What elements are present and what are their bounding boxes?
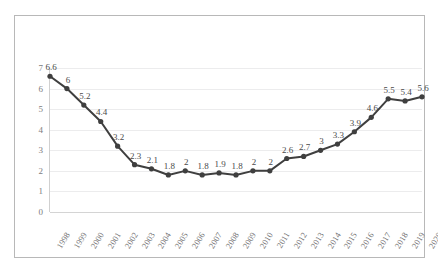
data-point-marker	[132, 162, 137, 167]
x-axis-tick-label: 2008	[224, 231, 241, 251]
data-point-marker	[216, 170, 221, 175]
data-point-marker	[183, 168, 188, 173]
data-point-label: 1.8	[231, 161, 242, 171]
data-point-label: 2.7	[299, 142, 310, 152]
y-axis-tick-label: 1	[39, 186, 44, 196]
data-point-label: 3.3	[333, 130, 344, 140]
x-axis-tick-label: 2000	[88, 231, 105, 251]
data-point-marker	[335, 142, 340, 147]
data-point-marker	[81, 102, 86, 107]
data-point-label: 2	[252, 157, 257, 167]
x-axis-tick-label: 2013	[308, 231, 325, 251]
data-point-marker	[352, 129, 357, 134]
data-point-label: 3	[319, 136, 324, 146]
line-series	[50, 68, 422, 212]
x-axis-tick-label: 2020	[426, 231, 438, 251]
x-axis-tick-label: 2019	[410, 231, 427, 251]
screenshot-root: 01234567 1998199920002001200220032004200…	[0, 0, 438, 268]
data-point-marker	[233, 172, 238, 177]
x-axis-tick-label: 1999	[71, 231, 88, 251]
x-axis-tick-label: 2010	[257, 231, 274, 251]
data-point-label: 2.6	[282, 145, 293, 155]
data-point-label: 4.4	[96, 107, 107, 117]
x-axis-tick-label: 2001	[105, 231, 122, 251]
data-point-label: 5.5	[384, 85, 395, 95]
data-point-label: 3.2	[113, 132, 124, 142]
data-point-marker	[419, 94, 424, 99]
x-axis-tick-label: 2005	[173, 231, 190, 251]
y-axis-tick-label: 5	[39, 104, 44, 114]
data-point-label: 1.8	[164, 161, 175, 171]
y-axis-tick-label: 6	[39, 84, 44, 94]
x-axis-tick-label: 2015	[342, 231, 359, 251]
data-point-label: 2	[269, 157, 274, 167]
data-point-marker	[47, 74, 52, 79]
data-point-marker	[166, 172, 171, 177]
data-point-marker	[318, 148, 323, 153]
data-point-label: 3.9	[350, 118, 361, 128]
data-point-marker	[200, 172, 205, 177]
y-axis-tick-label: 7	[39, 63, 44, 73]
x-axis-tick-label: 2006	[190, 231, 207, 251]
data-point-marker	[149, 166, 154, 171]
x-axis-tick-label: 2011	[274, 230, 291, 249]
data-point-marker	[64, 86, 69, 91]
data-point-label: 5.2	[79, 91, 90, 101]
data-point-label: 1.8	[198, 161, 209, 171]
data-point-label: 2.1	[147, 155, 158, 165]
chart-title	[0, 0, 438, 4]
y-axis-tick-label: 0	[39, 207, 44, 217]
data-point-marker	[402, 98, 407, 103]
x-axis-tick-label: 2007	[207, 231, 224, 251]
data-point-marker	[98, 119, 103, 124]
x-axis-tick-label: 2004	[156, 231, 173, 251]
x-axis-tick-label: 2009	[240, 231, 257, 251]
y-axis-tick-label: 2	[39, 166, 44, 176]
x-axis-line	[50, 212, 422, 213]
data-point-label: 5.6	[417, 83, 428, 93]
x-axis-tick-label: 2016	[359, 231, 376, 251]
x-axis-tick-label: 1998	[54, 231, 71, 251]
data-point-label: 2.3	[130, 151, 141, 161]
data-point-marker	[115, 144, 120, 149]
data-point-label: 2	[184, 157, 189, 167]
data-point-marker	[250, 168, 255, 173]
data-point-label: 5.4	[400, 87, 411, 97]
data-point-marker	[284, 156, 289, 161]
x-axis-tick-label: 2014	[325, 231, 342, 251]
data-point-marker	[386, 96, 391, 101]
x-axis-tick-label: 2012	[291, 231, 308, 251]
data-point-marker	[267, 168, 272, 173]
data-point-label: 6.6	[45, 62, 56, 72]
x-axis-tick-label: 2003	[139, 231, 156, 251]
data-point-marker	[301, 154, 306, 159]
y-axis-tick-label: 4	[39, 125, 44, 135]
x-axis-tick-label: 2017	[376, 231, 393, 251]
data-point-label: 1.9	[214, 159, 225, 169]
chart-frame: 01234567 1998199920002001200220032004200…	[14, 15, 425, 258]
plot-area: 01234567 1998199920002001200220032004200…	[50, 68, 422, 212]
data-point-label: 6	[66, 75, 71, 85]
data-point-label: 4.6	[367, 103, 378, 113]
x-axis-tick-label: 2018	[393, 231, 410, 251]
x-axis-tick-label: 2002	[122, 231, 139, 251]
y-axis-tick-label: 3	[39, 145, 44, 155]
data-point-marker	[369, 115, 374, 120]
